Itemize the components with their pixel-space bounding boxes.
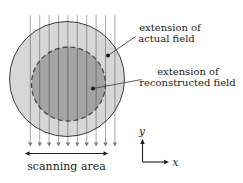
- reconstructed-field-circle: [32, 47, 106, 121]
- down-arrowhead-icon: [47, 143, 51, 147]
- down-arrowhead-icon: [103, 143, 107, 147]
- down-arrowhead-icon: [85, 143, 89, 147]
- scanning-extent-arrow: [25, 151, 108, 156]
- down-arrowhead-icon: [38, 143, 42, 147]
- reconstructed-field-label: extension of reconstructed field: [139, 66, 236, 88]
- up-arrowhead-icon: [140, 139, 145, 144]
- actual-field-label: extension of actual field: [138, 22, 202, 45]
- right-arrowhead-icon: [164, 160, 169, 165]
- coordinate-axes: y x: [138, 125, 178, 168]
- actual-field-label-line2: actual field: [138, 33, 195, 44]
- down-arrowhead-icon: [56, 143, 60, 147]
- scanning-area-label: scanning area: [27, 160, 106, 173]
- down-arrowhead-icon: [113, 143, 117, 147]
- y-axis-label: y: [138, 125, 146, 137]
- leader-dot: [91, 87, 95, 91]
- actual-field-label-line1: extension of: [139, 22, 202, 33]
- x-axis-label: x: [173, 156, 179, 168]
- reconstructed-field-label-line2: reconstructed field: [139, 77, 236, 88]
- reconstructed-field-label-line1: extension of: [157, 66, 220, 77]
- leader-dot: [106, 54, 110, 58]
- down-arrowhead-icon: [66, 143, 70, 147]
- down-arrowhead-icon: [94, 143, 98, 147]
- down-arrowhead-icon: [75, 143, 79, 147]
- diagram-canvas: y x extension of actual field extension …: [0, 0, 243, 183]
- left-arrowhead-icon: [25, 151, 30, 156]
- down-arrowhead-icon: [28, 143, 32, 147]
- field-scanning-diagram: y x extension of actual field extension …: [0, 0, 243, 183]
- right-arrowhead-icon: [104, 151, 109, 156]
